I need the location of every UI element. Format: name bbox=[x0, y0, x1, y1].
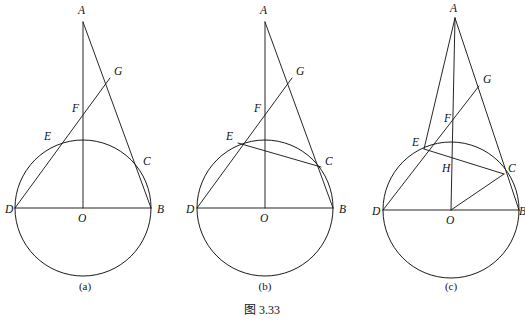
panel-b-label-o: O bbox=[260, 212, 269, 224]
panel-b-segment-AB-through-C bbox=[265, 22, 333, 208]
panel-b: AGFECDOB(b) bbox=[185, 4, 346, 293]
panel-c: AGFEHCDOB(c) bbox=[371, 2, 525, 293]
panel-b-label-a: A bbox=[259, 4, 268, 16]
panel-b-caption: (b) bbox=[259, 280, 272, 293]
panel-c-label-f: F bbox=[443, 112, 452, 124]
panel-a-label-g: G bbox=[114, 65, 123, 77]
figure-container: AGFECDOB(a)AGFECDOB(b)AGFEHCDOB(c)图 3.33 bbox=[0, 0, 525, 321]
panel-c-radius-OC bbox=[451, 174, 504, 210]
panel-b-label-b: B bbox=[339, 203, 346, 215]
panel-a-segment-DG bbox=[15, 78, 110, 208]
panel-b-chord-EC bbox=[238, 143, 321, 167]
panel-b-segment-DG bbox=[197, 78, 292, 208]
panel-a-label-a: A bbox=[77, 4, 86, 16]
panel-b-label-c: C bbox=[325, 155, 333, 167]
panel-c-label-c: C bbox=[508, 162, 516, 174]
panel-c-label-d: D bbox=[371, 205, 381, 217]
panel-a-segment-AB-through-C bbox=[83, 22, 151, 208]
panel-a-label-c: C bbox=[143, 155, 151, 167]
figure-caption: 图 3.33 bbox=[244, 303, 280, 317]
panel-c-label-g: G bbox=[483, 73, 492, 85]
panel-c-label-e: E bbox=[411, 136, 419, 148]
panel-a: AGFECDOB(a) bbox=[4, 4, 164, 293]
panel-c-label-o: O bbox=[446, 214, 455, 226]
panel-c-label-b: B bbox=[519, 205, 525, 217]
panel-a-caption: (a) bbox=[79, 280, 92, 293]
panel-b-label-d: D bbox=[185, 203, 195, 215]
panel-a-label-b: B bbox=[157, 203, 164, 215]
panel-b-label-e: E bbox=[225, 130, 233, 142]
panel-c-segment-AO bbox=[451, 18, 455, 210]
panel-c-segment-AB-through-C bbox=[455, 18, 519, 210]
panel-b-label-f: F bbox=[253, 102, 262, 114]
panel-c-label-a: A bbox=[449, 2, 458, 14]
panel-a-label-f: F bbox=[71, 102, 80, 114]
panel-a-label-o: O bbox=[78, 212, 87, 224]
panel-c-segment-AE bbox=[424, 18, 455, 149]
panel-b-label-g: G bbox=[296, 65, 305, 77]
panel-a-label-e: E bbox=[43, 130, 51, 142]
panel-c-segment-DG bbox=[383, 86, 479, 210]
geometry-figure: AGFECDOB(a)AGFECDOB(b)AGFEHCDOB(c)图 3.33 bbox=[0, 0, 525, 321]
panel-a-label-d: D bbox=[4, 203, 14, 215]
panel-c-chord-EC bbox=[424, 149, 504, 174]
panel-c-caption: (c) bbox=[445, 280, 458, 293]
panel-c-label-h: H bbox=[441, 162, 451, 174]
